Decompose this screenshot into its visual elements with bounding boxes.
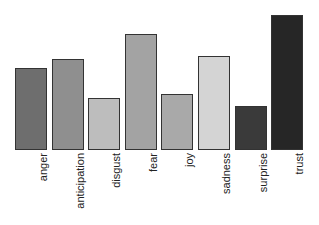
tick-text: anger bbox=[37, 153, 49, 181]
x-tick-label-anger: anger bbox=[23, 153, 39, 223]
x-tick-label-fear: fear bbox=[133, 153, 149, 223]
tick-text: joy bbox=[183, 153, 195, 167]
tick-text: fear bbox=[147, 153, 159, 172]
bar-anger bbox=[15, 68, 47, 150]
tick-text: trust bbox=[293, 153, 305, 174]
bar-disgust bbox=[88, 98, 120, 150]
bar-fear bbox=[125, 34, 157, 150]
bar-trust bbox=[271, 15, 303, 150]
tick-text: anticipation bbox=[74, 153, 86, 209]
tick-text: sadness bbox=[220, 153, 232, 194]
bar-joy bbox=[161, 94, 193, 150]
tick-text: disgust bbox=[110, 153, 122, 188]
bar-surprise bbox=[235, 106, 267, 150]
tick-text: surprise bbox=[257, 153, 269, 192]
x-tick-label-trust: trust bbox=[279, 153, 295, 223]
x-tick-label-joy: joy bbox=[169, 153, 185, 223]
x-tick-label-sadness: sadness bbox=[206, 153, 222, 223]
bar-anticipation bbox=[52, 59, 84, 150]
emotion-bar-chart: anger anticipation disgust fear joy sadn… bbox=[0, 0, 319, 225]
x-tick-label-anticipation: anticipation bbox=[60, 153, 76, 223]
x-tick-label-surprise: surprise bbox=[243, 153, 259, 223]
bar-sadness bbox=[198, 56, 230, 150]
x-tick-label-disgust: disgust bbox=[96, 153, 112, 223]
